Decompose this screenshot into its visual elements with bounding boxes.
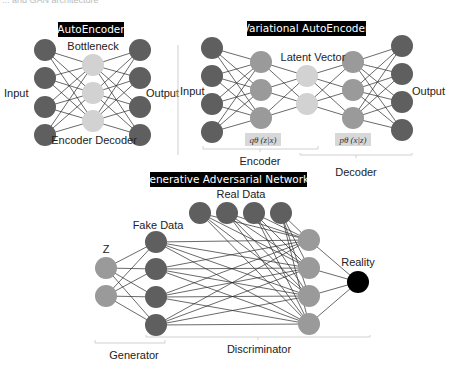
real-data-label: Real Data bbox=[217, 188, 267, 200]
z-node bbox=[95, 285, 117, 307]
z-label: Z bbox=[103, 243, 110, 255]
output-node bbox=[129, 39, 151, 61]
bottleneck-node bbox=[82, 110, 104, 132]
connection bbox=[281, 213, 309, 296]
output-node bbox=[129, 67, 151, 89]
enc-hidden-node bbox=[250, 51, 272, 73]
vae-panel: Variational AutoEncoder Latent Vector In… bbox=[180, 21, 445, 178]
fake-data-node bbox=[145, 258, 167, 280]
generator-brace bbox=[95, 340, 165, 343]
architecture-diagram: ... and GAN architecture AutoEncoder Bot… bbox=[0, 0, 460, 372]
latent-vector-label: Latent Vector bbox=[281, 51, 346, 63]
discriminator-node bbox=[298, 313, 320, 335]
encoder-label: Encoder bbox=[240, 155, 281, 167]
discriminator-node bbox=[298, 257, 320, 279]
real-data-node bbox=[216, 202, 238, 224]
connection bbox=[156, 324, 309, 325]
input-node bbox=[34, 67, 56, 89]
latent-node bbox=[296, 65, 318, 87]
vae-input-label: Input bbox=[180, 85, 204, 97]
input-node bbox=[201, 121, 223, 143]
output-node bbox=[391, 35, 413, 57]
connection bbox=[254, 213, 309, 296]
dec-hidden-node bbox=[342, 107, 364, 129]
enc-hidden-node bbox=[250, 79, 272, 101]
dec-hidden-node bbox=[342, 79, 364, 101]
encoder-decoder-label: Encoder Decoder bbox=[51, 134, 137, 146]
output-node bbox=[391, 63, 413, 85]
z-node bbox=[95, 257, 117, 279]
gan-panel: Generative Adversarial Networks Real Dat… bbox=[95, 172, 375, 361]
autoencoder-panel: AutoEncoder Bottleneck Input Output Enco… bbox=[4, 22, 179, 146]
discriminator-label: Discriminator bbox=[227, 343, 292, 355]
vae-output-label: Output bbox=[412, 85, 445, 97]
fake-data-node bbox=[145, 231, 167, 253]
reality-label: Reality bbox=[341, 256, 375, 268]
input-node bbox=[34, 96, 56, 118]
discriminator-node bbox=[298, 285, 320, 307]
encoder-brace bbox=[203, 146, 318, 152]
cropped-caption: ... and GAN architecture bbox=[2, 0, 99, 5]
enc-hidden-node bbox=[250, 107, 272, 129]
input-node bbox=[34, 39, 56, 61]
decoder-brace bbox=[300, 153, 412, 158]
autoencoder-nodes bbox=[34, 39, 151, 146]
output-node bbox=[391, 119, 413, 141]
bottleneck-node bbox=[82, 54, 104, 76]
bottleneck-node bbox=[82, 82, 104, 104]
gan-title: Generative Adversarial Networks bbox=[141, 173, 314, 185]
connection bbox=[227, 213, 309, 240]
discriminator-node bbox=[298, 229, 320, 251]
output-node bbox=[129, 96, 151, 118]
input-node bbox=[201, 65, 223, 87]
decoder-formula: pθ (x|z) bbox=[338, 135, 366, 145]
vae-title: Variational AutoEncoder bbox=[243, 22, 370, 34]
discriminator-brace bbox=[146, 335, 370, 340]
latent-node bbox=[296, 93, 318, 115]
output-node bbox=[391, 91, 413, 113]
real-data-node bbox=[189, 202, 211, 224]
ae-input-label: Input bbox=[4, 87, 28, 99]
input-node bbox=[201, 37, 223, 59]
connection bbox=[156, 240, 309, 242]
fake-data-node bbox=[145, 286, 167, 308]
ae-output-label: Output bbox=[146, 87, 179, 99]
connection bbox=[200, 213, 309, 296]
reality-node bbox=[347, 271, 369, 293]
real-data-node bbox=[243, 202, 265, 224]
generator-label: Generator bbox=[109, 349, 159, 361]
fake-data-node bbox=[145, 314, 167, 336]
encoder-formula: qθ (z|x) bbox=[249, 135, 276, 145]
bottleneck-label: Bottleneck bbox=[67, 40, 119, 52]
decoder-label: Decoder bbox=[335, 166, 377, 178]
real-data-node bbox=[270, 202, 292, 224]
fake-data-label: Fake Data bbox=[133, 219, 185, 231]
autoencoder-title: AutoEncoder bbox=[57, 23, 125, 35]
